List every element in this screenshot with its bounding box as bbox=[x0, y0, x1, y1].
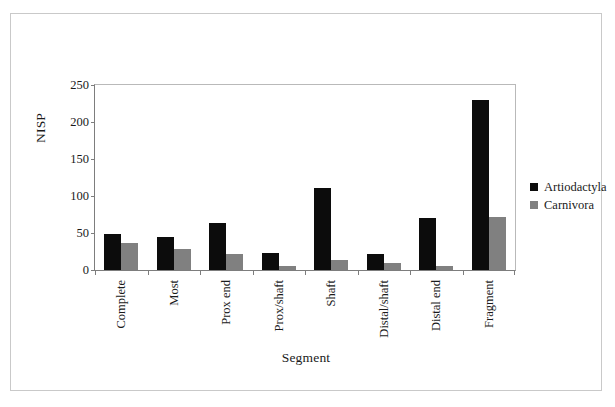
x-tick-label: Most bbox=[168, 280, 181, 306]
bar-group: Prox end bbox=[200, 85, 253, 270]
bar-artiodactyla-distal-shaft bbox=[367, 254, 384, 270]
bar-artiodactyla-shaft bbox=[314, 188, 331, 270]
legend-item: Carnivora bbox=[530, 199, 606, 212]
bar-artiodactyla-fragment bbox=[472, 100, 489, 270]
y-tick-label: 50 bbox=[77, 227, 90, 240]
chart-legend: ArtiodactylaCarnivora bbox=[530, 181, 606, 216]
y-tick-label: 250 bbox=[70, 79, 89, 92]
bar-carnivora-fragment bbox=[489, 217, 506, 270]
x-tick-mark bbox=[514, 270, 515, 275]
legend-swatch-icon bbox=[530, 183, 538, 191]
y-tick-label: 100 bbox=[70, 190, 89, 203]
figure-frame: NISP 050100150200250 CompleteMostProx en… bbox=[10, 13, 602, 391]
plot-area: 050100150200250 CompleteMostProx endProx… bbox=[94, 84, 516, 271]
bar-carnivora-most bbox=[174, 249, 191, 270]
bar-group: Fragment bbox=[463, 85, 516, 270]
bar-artiodactyla-prox-end bbox=[209, 223, 226, 270]
bar-artiodactyla-complete bbox=[104, 234, 121, 270]
legend-label: Carnivora bbox=[544, 199, 594, 212]
x-tick-label: Distal end bbox=[430, 280, 443, 331]
bar-group: Prox/shaft bbox=[253, 85, 306, 270]
x-tick-label: Prox/shaft bbox=[273, 280, 286, 331]
bar-carnivora-shaft bbox=[331, 260, 348, 270]
x-tick-mark bbox=[253, 270, 254, 275]
x-tick-label: Distal/shaft bbox=[378, 280, 391, 338]
x-tick-mark bbox=[95, 270, 96, 275]
x-tick-mark bbox=[200, 270, 201, 275]
y-tick-label: 150 bbox=[70, 153, 89, 166]
legend-swatch-icon bbox=[530, 201, 538, 209]
bar-carnivora-distal-end bbox=[436, 266, 453, 270]
x-tick-label: Complete bbox=[115, 280, 128, 329]
bar-group: Complete bbox=[95, 85, 148, 270]
bars-layer: CompleteMostProx endProx/shaftShaftDista… bbox=[95, 85, 515, 270]
x-tick-mark bbox=[305, 270, 306, 275]
bar-group: Most bbox=[148, 85, 201, 270]
x-axis-title: Segment bbox=[11, 350, 601, 366]
x-tick-mark bbox=[410, 270, 411, 275]
bar-carnivora-complete bbox=[121, 243, 138, 270]
x-tick-label: Prox end bbox=[220, 280, 233, 325]
bar-group: Distal/shaft bbox=[358, 85, 411, 270]
x-tick-mark bbox=[358, 270, 359, 275]
bar-group: Shaft bbox=[305, 85, 358, 270]
x-tick-label: Fragment bbox=[483, 280, 496, 328]
bar-artiodactyla-distal-end bbox=[419, 218, 436, 270]
x-tick-mark bbox=[148, 270, 149, 275]
y-axis-title: NISP bbox=[33, 113, 49, 143]
bar-carnivora-distal-shaft bbox=[384, 263, 401, 270]
x-tick-label: Shaft bbox=[325, 280, 338, 306]
bar-carnivora-prox-shaft bbox=[279, 266, 296, 270]
bar-carnivora-prox-end bbox=[226, 254, 243, 270]
y-tick-label: 0 bbox=[83, 264, 89, 277]
bar-artiodactyla-prox-shaft bbox=[262, 253, 279, 270]
legend-item: Artiodactyla bbox=[530, 181, 606, 194]
x-tick-mark bbox=[463, 270, 464, 275]
legend-label: Artiodactyla bbox=[544, 181, 606, 194]
bar-group: Distal end bbox=[410, 85, 463, 270]
bar-artiodactyla-most bbox=[157, 237, 174, 270]
y-tick-label: 200 bbox=[70, 116, 89, 129]
